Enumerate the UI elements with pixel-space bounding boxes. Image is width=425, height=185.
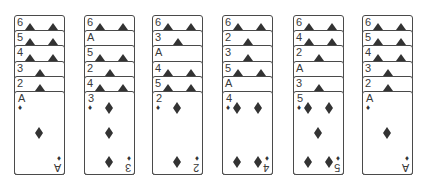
card-rank-bottom: A (54, 162, 61, 173)
pile-5: 642A35♦5♦ (293, 15, 344, 173)
pile-3: 63A452♦2♦ (152, 15, 203, 173)
spade-pip-icon (383, 84, 393, 91)
spade-pip-icon (35, 69, 45, 76)
diamond-pip-icon (254, 102, 262, 114)
card-rank: 4 (155, 62, 161, 74)
card-rank: 6 (225, 16, 231, 28)
diamond-icon: ♦ (88, 104, 92, 112)
diamond-pip-icon (233, 102, 241, 114)
spade-pip-icon (233, 23, 243, 30)
diamond-icon: ♦ (226, 104, 230, 112)
spade-pip-icon (243, 54, 253, 61)
card-rank: 6 (87, 16, 93, 28)
spade-pip-icon (118, 54, 128, 61)
card-rank: 6 (155, 16, 161, 28)
card-rank: 5 (17, 31, 23, 43)
diamond-pip-icon (314, 127, 322, 139)
spade-pip-icon (25, 54, 35, 61)
spade-pip-icon (48, 23, 58, 30)
pile-4: 6235A4♦4♦ (222, 15, 273, 173)
spade-pip-icon (48, 54, 58, 61)
spade-pip-icon (95, 54, 105, 61)
card-rank: 3 (365, 62, 371, 74)
diamond-icon: ♦ (195, 154, 199, 162)
card-rank: 2 (17, 77, 23, 89)
spade-pip-icon (233, 69, 243, 76)
card-rank: 3 (17, 62, 23, 74)
card-rank: 5 (365, 31, 371, 43)
face-up-card[interactable]: 2♦2♦ (152, 91, 203, 175)
card-rank-bottom: 4 (263, 162, 269, 173)
spade-pip-icon (383, 69, 393, 76)
spade-pip-icon (314, 54, 324, 61)
face-up-card[interactable]: 4♦4♦ (222, 91, 273, 175)
pile-6: 65432A♦A♦ (362, 15, 413, 173)
spade-pip-icon (327, 23, 337, 30)
card-rank: 2 (296, 46, 302, 58)
card-rank-bottom: 5 (334, 162, 340, 173)
card-rank: 2 (225, 31, 231, 43)
diamond-icon: ♦ (366, 104, 370, 112)
diamond-icon: ♦ (127, 154, 131, 162)
diamond-pip-icon (304, 102, 312, 114)
card-rank: A (296, 62, 303, 74)
spade-pip-icon (256, 69, 266, 76)
pile-2: 6A5243♦3♦ (84, 15, 135, 173)
spade-pip-icon (304, 38, 314, 45)
card-rank-bottom: 2 (193, 162, 199, 173)
card-rank: 3 (225, 46, 231, 58)
diamond-pip-icon (105, 102, 113, 114)
spade-pip-icon (186, 23, 196, 30)
diamond-pip-icon (35, 127, 43, 139)
diamond-pip-icon (173, 156, 181, 168)
spade-pip-icon (95, 23, 105, 30)
face-up-card[interactable]: A♦A♦ (362, 91, 413, 175)
diamond-pip-icon (105, 127, 113, 139)
card-rank: 3 (296, 77, 302, 89)
diamond-icon: ♦ (297, 104, 301, 112)
spade-pip-icon (35, 84, 45, 91)
spade-pip-icon (95, 84, 105, 91)
spade-pip-icon (163, 69, 173, 76)
card-rank: 4 (87, 77, 93, 89)
spade-pip-icon (163, 84, 173, 91)
card-rank: A (87, 31, 94, 43)
spade-pip-icon (304, 23, 314, 30)
spade-pip-icon (173, 38, 183, 45)
face-up-card[interactable]: 3♦3♦ (84, 91, 135, 175)
face-up-card[interactable]: A♦A♦ (14, 91, 65, 175)
spade-pip-icon (396, 38, 406, 45)
diamond-pip-icon (304, 156, 312, 168)
spade-pip-icon (186, 84, 196, 91)
diamond-pip-icon (254, 156, 262, 168)
face-up-card[interactable]: 5♦5♦ (293, 91, 344, 175)
spade-pip-icon (186, 69, 196, 76)
card-rank: 5 (155, 77, 161, 89)
diamond-pip-icon (105, 156, 113, 168)
card-rank: 6 (296, 16, 302, 28)
card-rank: 4 (296, 31, 302, 43)
spade-pip-icon (25, 23, 35, 30)
spade-pip-icon (105, 69, 115, 76)
diamond-icon: ♦ (336, 154, 340, 162)
diamond-icon: ♦ (156, 104, 160, 112)
card-rank: 2 (87, 62, 93, 74)
spade-pip-icon (48, 38, 58, 45)
diamond-icon: ♦ (57, 154, 61, 162)
spade-pip-icon (373, 38, 383, 45)
spade-pip-icon (256, 23, 266, 30)
card-rank: 3 (155, 31, 161, 43)
spade-pip-icon (25, 38, 35, 45)
card-rank: 4 (17, 46, 23, 58)
card-rank: A (155, 46, 162, 58)
card-rank: 5 (87, 46, 93, 58)
card-rank-bottom: 3 (125, 162, 131, 173)
diamond-pip-icon (325, 102, 333, 114)
diamond-icon: ♦ (265, 154, 269, 162)
card-rank: A (225, 77, 232, 89)
diamond-pip-icon (173, 102, 181, 114)
spade-pip-icon (243, 38, 253, 45)
card-rank: 6 (365, 16, 371, 28)
spade-pip-icon (327, 38, 337, 45)
diamond-icon: ♦ (405, 154, 409, 162)
